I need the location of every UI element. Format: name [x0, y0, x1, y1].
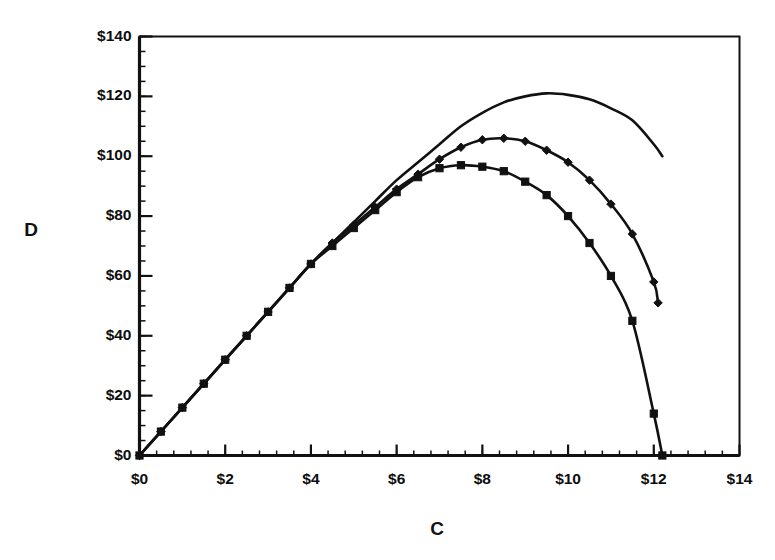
data-point-marker: [179, 404, 186, 411]
series-lower-curve: [136, 162, 666, 460]
x-axis-ticks: [140, 445, 740, 456]
data-point-marker: [329, 242, 336, 249]
data-point-marker: [372, 206, 379, 213]
series-middle-curve: [135, 134, 662, 460]
data-point-marker: [478, 136, 486, 144]
data-point-marker: [659, 452, 666, 459]
data-point-marker: [650, 278, 658, 286]
data-point-marker: [586, 239, 593, 246]
data-point-marker: [393, 189, 400, 196]
data-point-marker: [457, 162, 464, 169]
x-tick-label: $0: [110, 470, 170, 488]
data-point-marker: [564, 212, 571, 219]
x-axis-title: C: [420, 518, 454, 540]
data-point-marker: [479, 163, 486, 170]
data-point-marker: [650, 410, 657, 417]
data-point-marker: [307, 260, 314, 267]
data-point-marker: [414, 174, 421, 181]
data-point-marker: [157, 428, 164, 435]
x-tick-label: $12: [624, 470, 684, 488]
x-tick-label: $2: [195, 470, 255, 488]
data-point-marker: [136, 452, 143, 459]
data-point-marker: [654, 299, 662, 307]
y-tick-label: $60: [60, 266, 132, 284]
x-tick-label: $4: [281, 470, 341, 488]
data-point-marker: [500, 168, 507, 175]
y-tick-label: $80: [60, 206, 132, 224]
data-point-marker: [522, 178, 529, 185]
data-point-marker: [457, 143, 465, 151]
x-tick-label: $10: [538, 470, 598, 488]
data-series-layer: [135, 93, 666, 459]
data-point-marker: [200, 380, 207, 387]
data-point-marker: [436, 165, 443, 172]
x-tick-label: $6: [367, 470, 427, 488]
data-point-marker: [543, 192, 550, 199]
data-point-marker: [542, 146, 550, 154]
data-point-marker: [500, 134, 508, 142]
y-tick-label: $40: [60, 326, 132, 344]
data-point-marker: [521, 137, 529, 145]
y-axis-title: D: [16, 219, 46, 241]
data-point-marker: [350, 224, 357, 231]
y-tick-label: $20: [60, 386, 132, 404]
data-point-marker: [264, 308, 271, 315]
data-point-marker: [243, 332, 250, 339]
data-point-marker: [222, 356, 229, 363]
data-point-marker: [607, 272, 614, 279]
y-tick-label: $120: [60, 86, 132, 104]
y-tick-label: $0: [60, 446, 132, 464]
series-upper-curve: [140, 93, 663, 455]
x-tick-label: $14: [710, 470, 770, 488]
x-tick-label: $8: [452, 470, 512, 488]
data-point-marker: [629, 317, 636, 324]
data-point-marker: [286, 284, 293, 291]
chart-page: D C $0$20$40$60$80$100$120$140 $0$2$4$6$…: [0, 0, 775, 560]
y-tick-label: $100: [60, 146, 132, 164]
y-axis-ticks: [140, 37, 153, 456]
y-tick-label: $140: [60, 27, 132, 45]
